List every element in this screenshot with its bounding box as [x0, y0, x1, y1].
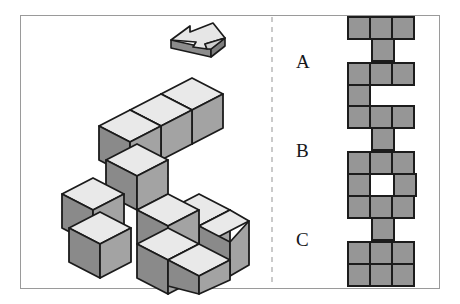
grid-cell-filled[interactable] — [391, 16, 415, 40]
grid-row — [348, 152, 418, 174]
grid-cell-filled[interactable] — [391, 105, 415, 129]
grid-row — [348, 264, 418, 286]
grid-cell-filled[interactable] — [391, 195, 415, 219]
grid-cell-empty — [394, 39, 418, 63]
grid-cell-filled[interactable] — [347, 173, 371, 197]
option-label-c: C — [296, 230, 309, 249]
grid-row — [348, 106, 418, 128]
grid-cell-filled[interactable] — [391, 62, 415, 86]
grid-cell-filled[interactable] — [393, 173, 417, 197]
grid-row — [348, 63, 418, 85]
grid-cell-filled[interactable] — [347, 263, 371, 287]
option-label-b: B — [296, 141, 309, 160]
grid-row — [348, 39, 418, 63]
figure-canvas: A B C — [0, 0, 460, 304]
grid-row — [348, 242, 418, 264]
grid-row — [348, 218, 418, 242]
grid-row — [348, 196, 418, 218]
grid-cell-filled[interactable] — [369, 16, 393, 40]
grid-cell-filled[interactable] — [369, 62, 393, 86]
grid-cell-empty — [394, 218, 418, 242]
grid-cell-filled[interactable] — [371, 38, 395, 62]
option-grid-b[interactable] — [348, 106, 418, 198]
grid-cell-filled[interactable] — [369, 195, 393, 219]
grid-cell-filled[interactable] — [369, 241, 393, 265]
grid-cell-filled[interactable] — [369, 151, 393, 175]
grid-cell-filled[interactable] — [347, 62, 371, 86]
grid-cell-filled[interactable] — [391, 151, 415, 175]
grid-cell-filled[interactable] — [369, 105, 393, 129]
option-grid-c[interactable] — [348, 196, 418, 285]
grid-cell-filled[interactable] — [371, 217, 395, 241]
grid-row — [348, 128, 418, 152]
grid-cell-filled[interactable] — [347, 241, 371, 265]
grid-cell-filled[interactable] — [391, 263, 415, 287]
grid-cell-empty — [348, 39, 372, 63]
grid-cell-filled[interactable] — [371, 127, 395, 151]
grid-cell-empty — [394, 128, 418, 152]
grid-row — [348, 17, 418, 39]
grid-cell-empty — [348, 218, 372, 242]
option-label-a: A — [296, 52, 310, 71]
grid-cell-filled[interactable] — [347, 105, 371, 129]
option-grid-a[interactable] — [348, 17, 418, 109]
grid-cell-filled[interactable] — [369, 263, 393, 287]
grid-cell-filled[interactable] — [347, 16, 371, 40]
grid-cell-filled[interactable] — [347, 151, 371, 175]
grid-cell-filled[interactable] — [347, 195, 371, 219]
grid-cell-filled[interactable] — [391, 241, 415, 265]
grid-cell-empty — [348, 128, 372, 152]
